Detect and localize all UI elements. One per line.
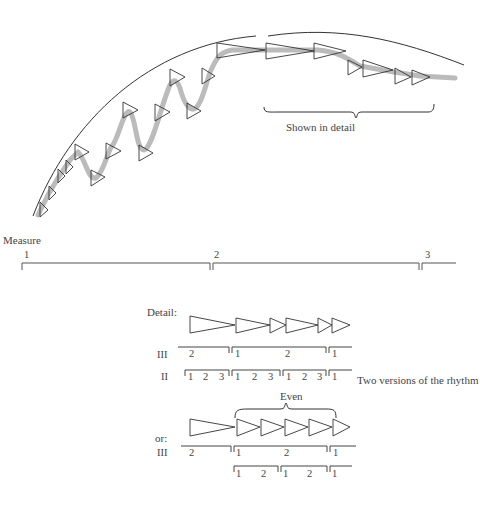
detail-iii-number: 2 [189,349,194,360]
alternative-iii-number: 1 [333,448,338,459]
detail-ii-number: 1 [188,372,193,383]
even-brace [235,403,336,418]
detail-iii-number: 2 [285,349,290,360]
detail-row-label-ii: II [161,372,168,383]
alternative-iii-brackets [181,446,356,452]
shown-in-detail-label: Shown in detail [286,122,355,133]
detail-ii-number: 3 [317,372,322,383]
detail-ii-number: 2 [203,372,208,383]
phrase-arc-1 [33,36,256,216]
alternative-iii-number: 1 [236,448,241,459]
alternative-lower-number: 2 [261,469,266,480]
detail-iii-number: 1 [235,349,240,360]
measure-line [22,263,456,270]
alternative-lower-number: 1 [332,469,337,480]
detail-triangles [190,316,350,333]
contour-line [38,50,455,215]
detail-ii-number: 1 [286,372,291,383]
detail-brace [264,104,434,118]
detail-iii-brackets [178,347,352,353]
detail-ii-number: 1 [235,372,240,383]
detail-row-label-iii: III [157,350,168,361]
or-label: or: [155,433,167,444]
two-versions-caption: Two versions of the rhythm [357,375,478,386]
detail-ii-number: 2 [252,372,257,383]
alternative-iii-number: 2 [284,448,289,459]
alternative-row-label-iii: III [157,448,168,459]
measure-label: Measure [3,235,41,246]
alternative-triangles [190,419,350,436]
alternative-lower-number: 1 [236,469,241,480]
detail-ii-number: 3 [219,372,224,383]
even-label: Even [280,391,303,402]
detail-ii-number: 3 [268,372,273,383]
measure-number-3: 3 [425,250,430,261]
alternative-lower-number: 1 [283,469,288,480]
detail-ii-number: 2 [302,372,307,383]
alternative-lower-number: 2 [307,469,312,480]
detail-ii-number: 1 [332,372,337,383]
measure-number-1: 1 [24,250,29,261]
alternative-iii-number: 2 [189,448,194,459]
measure-number-2: 2 [214,250,219,261]
detail-iii-number: 1 [332,349,337,360]
detail-label: Detail: [147,307,177,318]
